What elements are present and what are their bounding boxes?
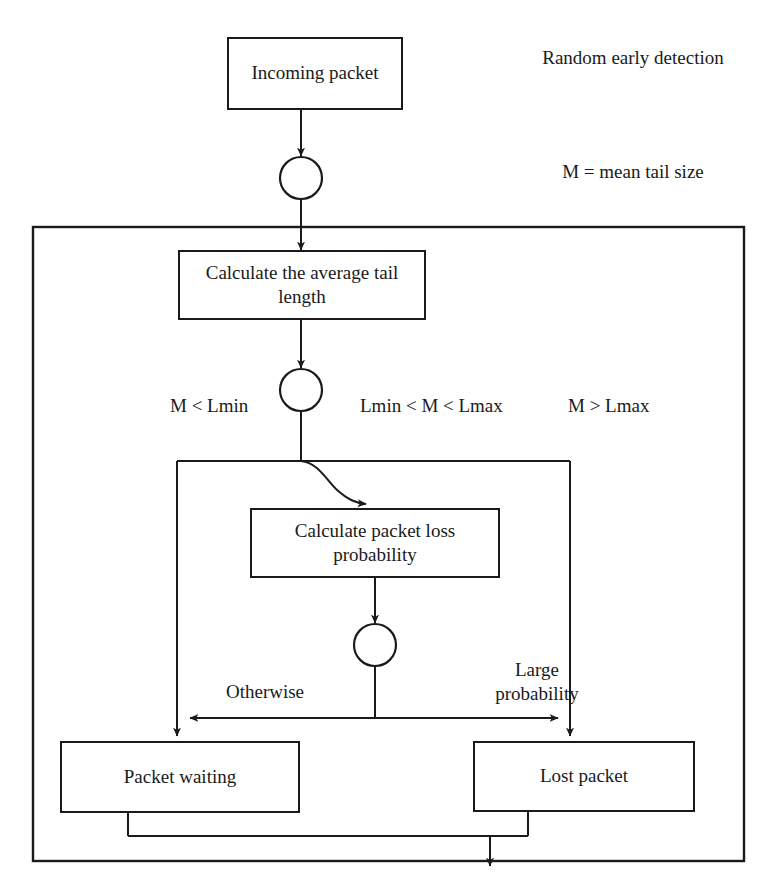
edge-branch-mid-curve	[301, 461, 366, 504]
node-calculate-packet-loss-probability[interactable]: Calculate packet loss probability	[250, 508, 500, 578]
node-calculate-average-tail-length-label: Calculate the average tail length	[188, 261, 416, 310]
edge-label-large-probability: Large probability	[462, 658, 612, 706]
node-lost-packet[interactable]: Lost packet	[473, 741, 695, 812]
node-packet-waiting-label: Packet waiting	[124, 765, 236, 789]
node-calculate-packet-loss-probability-label: Calculate packet loss probability	[260, 519, 490, 568]
edge-label-m-greater-lmax: M > Lmax	[568, 394, 718, 418]
node-packet-waiting[interactable]: Packet waiting	[60, 741, 300, 813]
node-lost-packet-label: Lost packet	[540, 764, 628, 788]
node-calculate-average-tail-length[interactable]: Calculate the average tail length	[178, 250, 426, 320]
decision-node-3	[354, 624, 396, 666]
node-incoming-packet-label: Incoming packet	[251, 61, 378, 85]
decision-node-1	[280, 157, 322, 199]
edge-label-otherwise: Otherwise	[185, 680, 345, 704]
node-incoming-packet[interactable]: Incoming packet	[227, 37, 403, 110]
edge-label-m-less-lmin: M < Lmin	[170, 394, 300, 418]
flowchart-canvas: Incoming packet Calculate the average ta…	[0, 0, 773, 894]
edge-label-lmin-m-lmax: Lmin < M < Lmax	[360, 394, 560, 418]
diagram-title: Random early detection	[508, 46, 758, 70]
legend-mean-tail-size: M = mean tail size	[508, 160, 758, 184]
